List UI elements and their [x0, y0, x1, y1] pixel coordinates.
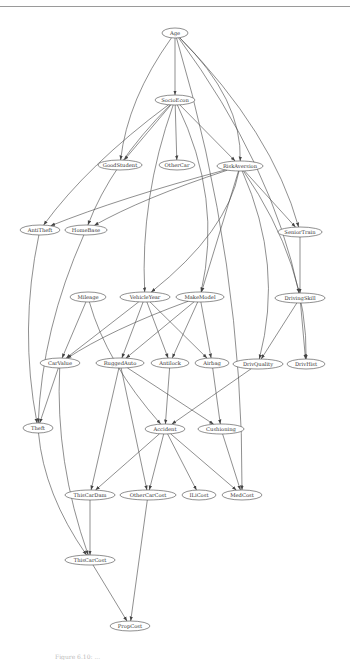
- edge-socioecon-to-othercar: [175, 105, 177, 160]
- node-label: DrivingSkill: [284, 295, 316, 302]
- edge-riskaversion-to-drivquality: [242, 171, 268, 359]
- node-othercar: OtherCar: [159, 160, 195, 170]
- edge-cushioning-to-medcost: [223, 434, 241, 490]
- node-drivingskill: DrivingSkill: [275, 293, 325, 303]
- edge-homebase-to-theft: [38, 235, 84, 423]
- edge-riskaversion-to-makemodel: [202, 171, 239, 292]
- edge-drivquality-to-accident: [172, 369, 251, 425]
- node-antitheft: AntiTheft: [20, 225, 60, 235]
- node-cushioning: Cushioning: [198, 424, 244, 434]
- node-theft: Theft: [23, 423, 53, 433]
- edge-riskaversion-to-vehicleyear: [151, 171, 239, 292]
- node-age: Age: [162, 28, 188, 38]
- edge-airbag-to-cushioning: [213, 368, 221, 424]
- node-propcost: PropCost: [110, 621, 150, 631]
- node-label: Cushioning: [206, 426, 236, 433]
- edge-accident-to-medcost: [171, 434, 237, 490]
- node-label: RuggedAuto: [104, 360, 137, 367]
- edge-vehicleyear-to-ruggedauto: [122, 302, 143, 358]
- edge-socioecon-to-riskaversion: [180, 105, 235, 161]
- edge-riskaversion-to-antitheft: [51, 170, 226, 226]
- node-label: ILiCost: [190, 492, 210, 498]
- node-mileage: Mileage: [70, 292, 106, 302]
- node-label: Theft: [31, 425, 46, 431]
- edge-carvalue-to-thiscarcost: [59, 368, 88, 555]
- edge-vehicleyear-to-airbag: [150, 302, 207, 358]
- edge-ruggedauto-to-cushioning: [127, 368, 213, 425]
- edge-socioecon-to-makemodel: [177, 105, 208, 292]
- edge-riskaversion-to-seniortrain: [245, 171, 296, 227]
- edge-makemodel-to-antilock: [172, 302, 197, 358]
- edge-age-to-medcost: [177, 38, 243, 490]
- node-label: ThisCarDam: [74, 492, 107, 498]
- edge-riskaversion-to-drivhist: [243, 171, 306, 359]
- node-label: Airbag: [202, 360, 221, 367]
- edge-othercarcost-to-propcost: [131, 500, 148, 621]
- edge-thiscarcost-to-propcost: [93, 565, 127, 621]
- node-label: Mileage: [77, 294, 98, 301]
- edge-accident-to-ilicost: [168, 434, 197, 490]
- edge-antilock-to-accident: [165, 368, 169, 424]
- node-thiscardam: ThisCarDam: [65, 490, 115, 500]
- edge-accident-to-othercarcost: [149, 434, 163, 490]
- node-drivhist: DrivHist: [287, 359, 325, 369]
- node-homebase: HomeBase: [65, 225, 107, 235]
- edge-mileage-to-carvalue: [62, 302, 86, 358]
- node-label: Antilock: [158, 360, 182, 366]
- node-label: PropCost: [118, 623, 143, 630]
- edge-makemodel-to-carvalue: [67, 301, 188, 358]
- edge-makemodel-to-airbag: [201, 302, 211, 358]
- nodes-layer: AgeSocioEconGoodStudentOtherCarRiskAvers…: [20, 28, 325, 631]
- node-label: AntiTheft: [27, 227, 54, 233]
- node-label: OtherCarCost: [130, 492, 168, 498]
- edge-antitheft-to-theft: [28, 235, 38, 423]
- node-thiscarcost: ThisCarCost: [65, 555, 115, 565]
- edge-ruggedauto-to-thiscardam: [91, 368, 119, 490]
- node-accident: Accident: [145, 424, 185, 434]
- node-medcost: MedCost: [222, 490, 262, 500]
- node-label: HomeBase: [72, 227, 100, 233]
- node-ilicost: ILiCost: [182, 490, 216, 500]
- edge-accident-to-thiscardam: [96, 434, 160, 490]
- edge-drivingskill-to-drivquality: [261, 303, 297, 359]
- node-ruggedauto: RuggedAuto: [96, 358, 144, 368]
- node-socioecon: SocioEcon: [155, 95, 195, 105]
- node-label: RiskAversion: [223, 163, 258, 169]
- edge-vehicleyear-to-carvalue: [66, 302, 139, 358]
- figure-caption: Figure 6.10: ...: [55, 653, 100, 660]
- edge-makemodel-to-ruggedauto: [126, 302, 194, 358]
- node-drivquality: DrivQuality: [233, 359, 283, 369]
- bayesian-network-diagram: AgeSocioEconGoodStudentOtherCarRiskAvers…: [0, 0, 350, 660]
- edges-layer: [28, 38, 306, 621]
- node-airbag: Airbag: [195, 358, 229, 368]
- node-label: GoodStudent: [103, 162, 138, 168]
- edge-socioecon-to-vehicleyear: [144, 105, 173, 292]
- node-goodstudent: GoodStudent: [98, 160, 142, 170]
- node-label: Accident: [152, 426, 177, 432]
- node-label: VehicleYear: [129, 294, 161, 300]
- node-carvalue: CarValue: [40, 358, 80, 368]
- node-label: ThisCarCost: [74, 557, 107, 563]
- node-makemodel: MakeModel: [176, 292, 224, 302]
- node-othercarcost: OtherCarCost: [120, 490, 176, 500]
- node-seniortrain: SeniorTrain: [278, 227, 322, 237]
- edge-ruggedauto-to-othercarcost: [121, 368, 147, 490]
- node-label: MedCost: [230, 492, 254, 498]
- node-label: SocioEcon: [161, 97, 189, 103]
- node-label: DrivHist: [295, 361, 318, 367]
- node-label: MakeModel: [184, 294, 215, 300]
- node-antilock: Antilock: [151, 358, 189, 368]
- node-label: Age: [169, 30, 180, 37]
- node-riskaversion: RiskAversion: [217, 161, 263, 171]
- node-label: DrivQuality: [243, 361, 273, 368]
- node-label: CarValue: [48, 360, 72, 366]
- node-label: OtherCar: [165, 162, 190, 168]
- node-label: SeniorTrain: [284, 229, 316, 235]
- node-vehicleyear: VehicleYear: [120, 292, 170, 302]
